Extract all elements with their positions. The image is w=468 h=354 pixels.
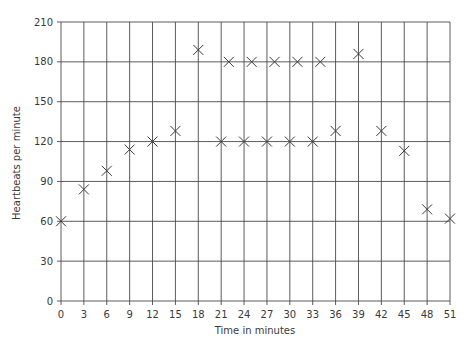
x-axis-label: Time in minutes: [214, 325, 295, 336]
x-tick-label: 27: [261, 309, 274, 320]
y-tick-label: 150: [34, 96, 53, 107]
x-tick-label: 45: [398, 309, 411, 320]
x-tick-label: 33: [306, 309, 319, 320]
y-axis-label: Heartbeats per minute: [11, 106, 22, 220]
data-points: [56, 45, 455, 226]
y-tick-label: 120: [34, 136, 53, 147]
x-tick-label: 18: [192, 309, 205, 320]
y-tick-label: 90: [40, 176, 53, 187]
x-tick-label: 42: [375, 309, 388, 320]
x-tick-label: 6: [104, 309, 110, 320]
y-tick-label: 0: [47, 296, 53, 307]
y-tick-label: 60: [40, 216, 53, 227]
x-tick-label: 51: [444, 309, 457, 320]
grid-lines: [57, 22, 450, 305]
x-tick-label: 15: [169, 309, 182, 320]
y-tick-label: 180: [34, 56, 53, 67]
x-tick-label: 9: [126, 309, 132, 320]
x-tick-label: 48: [421, 309, 434, 320]
x-tick-label: 36: [329, 309, 342, 320]
y-tick-label: 210: [34, 17, 53, 28]
x-tick-label: 30: [283, 309, 296, 320]
scatter-chart: 0306090120150180210 03691215182124273033…: [0, 0, 468, 354]
y-axis-ticks: 0306090120150180210: [34, 17, 53, 307]
x-axis-ticks: 03691215182124273033363942454851: [58, 309, 457, 320]
x-tick-label: 0: [58, 309, 64, 320]
x-tick-label: 24: [238, 309, 251, 320]
x-tick-label: 3: [81, 309, 87, 320]
x-tick-label: 21: [215, 309, 228, 320]
x-tick-label: 39: [352, 309, 365, 320]
x-tick-label: 12: [146, 309, 159, 320]
y-tick-label: 30: [40, 256, 53, 267]
